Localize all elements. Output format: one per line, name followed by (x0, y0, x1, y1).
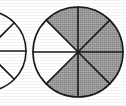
left-fraction-circle (0, 11, 26, 91)
fraction-circles-svg (0, 0, 126, 106)
right-fraction-circle (33, 7, 123, 97)
fraction-circles-figure (0, 0, 126, 106)
